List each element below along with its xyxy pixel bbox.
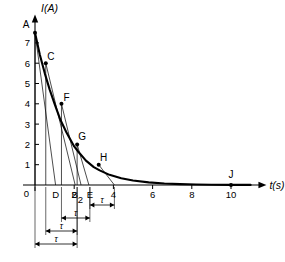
- point-label-f: F: [63, 92, 69, 103]
- y-tick-label: 4: [25, 98, 30, 109]
- tau-symbol: τ: [101, 195, 105, 205]
- x-axis-title: t(s): [269, 179, 284, 191]
- y-tick-label: 5: [25, 78, 30, 89]
- figure-exponential-decay: ACFGHJ ττττ 12345670246810I(A)t(s)DB2E: [0, 0, 285, 262]
- x-tick-label: 10: [226, 189, 237, 200]
- decay-chart-svg: ACFGHJ ττττ 12345670246810I(A)t(s)DB2E: [0, 0, 285, 262]
- decay-curve-group: [35, 33, 251, 185]
- axes-group: [23, 15, 266, 191]
- decay-curve: [35, 33, 251, 185]
- tau-arrow-right: [110, 203, 115, 208]
- axis-foot-label-b: B: [71, 189, 77, 200]
- tau-arrow-left: [90, 203, 95, 208]
- y-tick-label: 1: [25, 159, 30, 170]
- axis-foot-label-d: D: [52, 189, 59, 200]
- data-point-marker: [97, 163, 101, 167]
- x-axis-arrowhead: [258, 182, 266, 188]
- point-label-g: G: [78, 131, 86, 142]
- x-tick-label-zero: 0: [24, 188, 29, 199]
- point-label-a: A: [23, 19, 30, 30]
- data-point-marker: [229, 183, 233, 187]
- tau-arrow-right: [73, 229, 78, 234]
- point-label-c: C: [47, 51, 54, 62]
- y-axis-title: I(A): [41, 2, 58, 14]
- tau-arrow-left: [35, 242, 40, 247]
- tau-arrow-right: [85, 216, 90, 221]
- tangent-line: [46, 63, 75, 185]
- x-tick-label: 6: [150, 189, 155, 200]
- data-point-marker: [33, 31, 37, 35]
- data-point-marker: [75, 142, 79, 146]
- y-tick-label: 2: [25, 139, 30, 150]
- tangent-line: [77, 144, 89, 185]
- x-tick-label: 8: [189, 189, 194, 200]
- tau-arrow-left: [46, 229, 51, 234]
- axis-foot-label-e: E: [87, 189, 93, 200]
- point-label-j: J: [229, 169, 234, 180]
- tau-symbol: τ: [54, 234, 58, 244]
- tau-symbol: τ: [74, 208, 78, 218]
- y-tick-label: 7: [25, 37, 30, 48]
- point-label-h: H: [100, 152, 107, 163]
- tau-symbol: τ: [60, 221, 64, 231]
- y-tick-label: 3: [25, 119, 30, 130]
- y-axis-arrowhead: [32, 15, 38, 23]
- y-tick-label: 6: [25, 58, 30, 69]
- tau-arrow-right: [73, 242, 78, 247]
- axis-foot-label-2: 2: [78, 194, 83, 205]
- x-tick-label: 4: [111, 189, 116, 200]
